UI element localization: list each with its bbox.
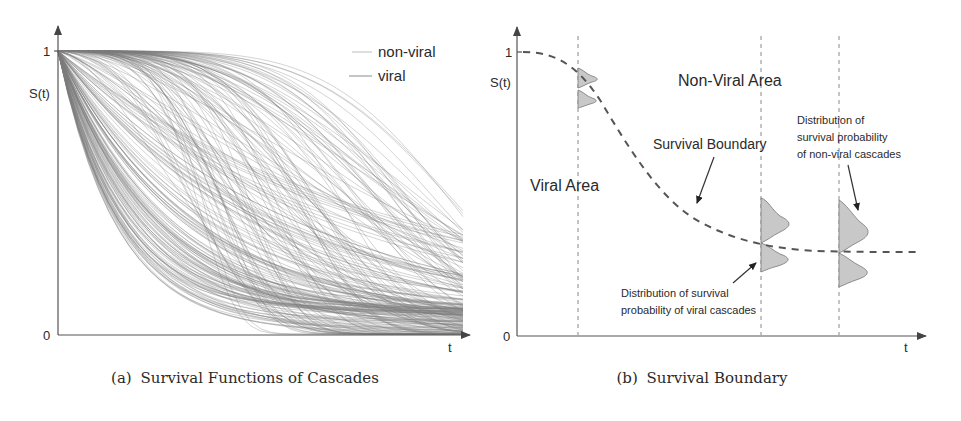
y-axis-label-a: S(t) (29, 86, 50, 101)
x-axis-label-a: t (448, 340, 452, 355)
nonviral-pointer-arrow (848, 165, 858, 210)
y-tick-label-0-a: 0 (43, 328, 50, 343)
nonviral-distribution-slice-1 (578, 68, 597, 88)
viral-distribution-slice-3 (839, 253, 867, 287)
viral-annotation-line-1: Distribution of survival (621, 287, 729, 299)
legend: non-viral viral (349, 43, 436, 84)
nonviral-distribution-annotation: Distribution of survival probability of … (797, 114, 901, 160)
caption-b-label: (b) (616, 369, 637, 387)
caption-b-text: Survival Boundary (647, 369, 788, 387)
nonviral-annotation-line-1: Distribution of (797, 114, 865, 126)
panel-b-survival-boundary: 1 0 S(t) t Non-Viral Area Viral Area Sur… (490, 27, 926, 387)
x-axis-label-b: t (904, 340, 908, 355)
nonviral-annotation-line-3: of non-viral cascades (797, 148, 901, 160)
viral-distribution-annotation: Distribution of survival probability of … (621, 287, 757, 316)
survival-boundary-label: Survival Boundary (653, 136, 767, 152)
survival-curves (58, 51, 463, 334)
nonviral-area-label: Non-Viral Area (678, 72, 782, 89)
nonviral-distribution-slice-3 (839, 200, 868, 253)
caption-a-text: Survival Functions of Cascades (140, 369, 378, 387)
viral-distribution-slice-1 (578, 90, 596, 108)
y-tick-label-1-a: 1 (43, 44, 50, 59)
caption-a-label: (a) (111, 369, 132, 387)
legend-label-nonviral: non-viral (378, 43, 436, 60)
caption-a: (a) Survival Functions of Cascades (111, 369, 379, 387)
viral-area-label: Viral Area (530, 177, 599, 194)
y-tick-label-1-b: 1 (505, 45, 512, 60)
survival-figure: 1 0 S(t) t non-viral viral (a) Survival … (0, 0, 961, 421)
caption-b: (b) Survival Boundary (616, 369, 788, 387)
panel-a-survival-functions: 1 0 S(t) t non-viral viral (a) Survival … (29, 26, 470, 387)
y-axis-label-b: S(t) (490, 75, 511, 90)
boundary-pointer-arrow (697, 157, 714, 203)
nonviral-distribution-slice-2 (761, 198, 789, 243)
y-tick-label-0-b: 0 (503, 329, 510, 344)
legend-label-viral: viral (378, 67, 406, 84)
viral-annotation-line-2: probability of viral cascades (621, 304, 757, 316)
viral-pointer-arrow (733, 263, 756, 283)
nonviral-annotation-line-2: survival probability (797, 131, 888, 143)
